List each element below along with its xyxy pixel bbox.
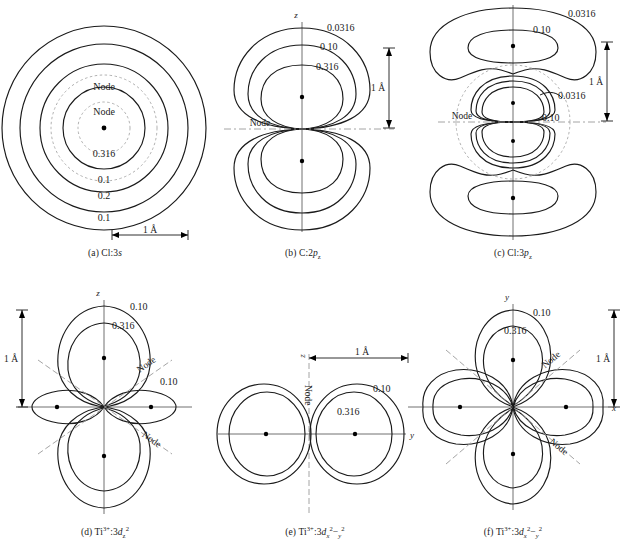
node-label-d-lower: Node <box>140 430 163 450</box>
contour-label-00316-c-outer: 0.0316 <box>568 8 596 19</box>
contour-010-f-bottom-left <box>475 407 513 504</box>
node-label-d-upper: Node <box>135 355 158 375</box>
caption-panel-f: (f) Ti3+:3dx2−y2 <box>400 525 626 539</box>
caption-c-sub: z <box>529 253 532 260</box>
scale-label-f: 1 Å <box>596 353 610 364</box>
contour-label-0316-e: 0.316 <box>337 406 360 417</box>
caption-f-text: (f) Ti <box>484 527 504 537</box>
nucleus-dot-inner-upper <box>511 101 515 105</box>
panel-c-cl-3pz: Node 0.0316 0.10 0.0316 0.10 1 Å (c) Cl:… <box>400 0 626 280</box>
nucleus-dot-d-right <box>149 405 153 409</box>
caption-e-mid: :3 <box>314 527 322 537</box>
node-label-f-upper: Node <box>540 349 562 370</box>
scale-label-b: 1 Å <box>371 82 385 93</box>
caption-d-text: (d) Ti <box>81 527 103 537</box>
contour-label-010-c-outer: 0.10 <box>533 24 551 35</box>
contour-010-f-bottom-right <box>513 407 551 504</box>
panel-f-ti-3dx2y2-clover: y x <box>400 282 626 560</box>
node-label-c: Node <box>452 111 473 121</box>
nucleus-dot-lower <box>300 159 304 163</box>
nucleus-dot-inner-lower <box>511 139 515 143</box>
contour-label-010-e: 0.10 <box>373 383 391 394</box>
nucleus-dot-f-top <box>511 358 515 362</box>
contour-0316-f-bottom-right <box>513 407 543 488</box>
contour-0316-upper-right <box>302 65 343 129</box>
panel-b-c-2pz: z Node 0.0316 0.1 <box>198 0 408 280</box>
nucleus-dot-d-left <box>55 405 59 409</box>
contour-inner-3rd-ur <box>513 87 544 122</box>
contour-label-01-b: 0.1 <box>98 212 111 223</box>
caption-f-sup3: 2 <box>539 525 542 532</box>
contour-0316-f-top-right <box>513 326 543 407</box>
caption-a-text: (a) Cl:3 <box>88 248 118 258</box>
caption-d-mid: :3 <box>110 527 118 537</box>
node-label-b: Node <box>250 118 271 128</box>
caption-d-sub: z <box>123 532 126 539</box>
contour-inner-3rd-lr <box>513 122 544 157</box>
nucleus-dot <box>102 126 107 131</box>
caption-c-text: (c) Cl:3 <box>494 248 524 258</box>
caption-e-text: (e) Ti <box>285 527 306 537</box>
contour-label-02: 0.2 <box>98 190 111 201</box>
caption-b-sub: z <box>318 253 321 260</box>
caption-panel-a: (a) Cl:3s <box>0 248 210 258</box>
nucleus-dot-f-bottom <box>511 452 515 456</box>
contour-label-010-f: 0.10 <box>533 307 551 318</box>
caption-panel-b: (b) C:2pz <box>198 248 408 260</box>
node-label-inner: Node <box>93 106 115 117</box>
nucleus-dot-upper <box>300 95 304 99</box>
caption-a-orbital: s <box>118 248 122 258</box>
axis-label-y-f: y <box>504 292 509 302</box>
scale-label-e: 1 Å <box>355 346 369 357</box>
contour-label-00316-b: 0.0316 <box>327 22 355 33</box>
orbital-contour-figure: Node Node 0.316 0.1 0.2 0.1 1 Å (a) Cl:3… <box>0 0 626 560</box>
contour-label-01-a: 0.1 <box>98 174 111 185</box>
caption-e-charge: 3+ <box>307 525 314 532</box>
nucleus-dot-e-right <box>353 432 357 436</box>
axis-label-z: z <box>293 10 298 20</box>
contour-0316-lower-right <box>302 129 343 193</box>
panel-e-ti-3dx2y2-side: y z Node 0.10 0.316 1 Å <box>210 282 420 560</box>
caption-f-sub2: y <box>536 532 539 539</box>
contour-inner-3rd-ul <box>482 87 513 122</box>
scale-label-d: 1 Å <box>4 353 18 364</box>
nucleus-dot-d-upper <box>102 356 106 360</box>
caption-e-sup3: 2 <box>341 525 344 532</box>
nucleus-dot-d-lower <box>102 454 106 458</box>
scale-label-a: 1 Å <box>143 224 157 235</box>
contour-010-upper-right <box>302 45 356 129</box>
caption-e-sub: x <box>326 532 329 539</box>
contour-label-010-c-inner: 0.10 <box>542 112 560 123</box>
contour-label-0316-b: 0.316 <box>316 61 339 72</box>
contour-inner-3rd-ll <box>482 122 513 157</box>
caption-panel-e: (e) Ti3+:3dx2−y2 <box>210 525 420 539</box>
contour-0316-lower-left <box>261 129 302 193</box>
nucleus-dot-f-left <box>458 405 462 409</box>
contour-label-0316: 0.316 <box>93 148 116 159</box>
panel-d-ti-3dz2: z Node <box>0 282 210 560</box>
caption-f-sub: x <box>524 532 527 539</box>
node-label-outer: Node <box>93 81 115 92</box>
caption-b-text: (b) C:2 <box>285 248 313 258</box>
caption-panel-c: (c) Cl:3pz <box>400 248 626 260</box>
nucleus-dot-f-right <box>564 405 568 409</box>
nucleus-dot-outer-lower <box>511 196 515 200</box>
panel-a-cl-3s: Node Node 0.316 0.1 0.2 0.1 1 Å (a) Cl:3… <box>0 0 210 280</box>
contour-label-010-d-side: 0.10 <box>160 376 178 387</box>
nucleus-dot-e-left <box>264 432 268 436</box>
axis-label-z-e: z <box>297 354 307 359</box>
contour-label-010-d-top: 0.10 <box>130 301 148 312</box>
contour-010-lower-right <box>302 129 356 213</box>
contour-label-0316-d: 0.316 <box>112 320 135 331</box>
node-label-e: Node <box>303 385 313 406</box>
caption-panel-d: (d) Ti3+:3dz2 <box>0 525 210 539</box>
nucleus-dot-outer-upper <box>511 44 515 48</box>
caption-f-mid: :3 <box>511 527 519 537</box>
caption-e-sub2: y <box>338 532 341 539</box>
contour-label-010-b: 0.10 <box>320 41 338 52</box>
caption-d-sup2: 2 <box>126 525 129 532</box>
contour-label-0316-f: 0.316 <box>504 325 527 336</box>
axis-label-z-d: z <box>95 288 100 298</box>
scale-label-c: 1 Å <box>589 76 603 87</box>
contour-label-00316-c-inner: 0.0316 <box>558 90 586 101</box>
